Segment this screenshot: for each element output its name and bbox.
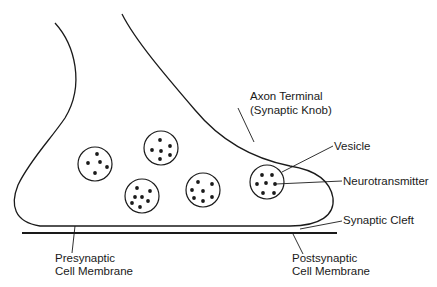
- vesicle-labeled: [250, 165, 284, 199]
- presynaptic-leader: [72, 226, 75, 253]
- vesicle: [78, 147, 112, 181]
- neurotransmitter-leader: [276, 181, 342, 184]
- neurotransmitter-label: Neurotransmitter: [343, 175, 429, 187]
- synaptic-cleft-label: Synaptic Cleft: [343, 214, 415, 226]
- presynaptic-cell-membrane-label: Cell Membrane: [55, 265, 133, 277]
- vesicle: [144, 131, 178, 165]
- presynaptic-label: Presynaptic: [55, 252, 115, 264]
- synaptic-knob-label: (Synaptic Knob): [250, 104, 332, 116]
- vesicle: [186, 173, 220, 207]
- vesicle-label: Vesicle: [334, 140, 370, 152]
- synapse-diagram: Axon Terminal (Synaptic Knob) Vesicle Ne…: [0, 0, 437, 287]
- axon-terminal-label: Axon Terminal: [250, 90, 323, 102]
- axon-terminal-outline: [14, 14, 333, 226]
- postsynaptic-label: Postsynaptic: [292, 252, 357, 264]
- postsynaptic-leader: [293, 234, 303, 254]
- vesicle: [125, 179, 159, 213]
- postsynaptic-cell-membrane-label: Cell Membrane: [292, 265, 370, 277]
- vesicle-leader: [282, 146, 333, 172]
